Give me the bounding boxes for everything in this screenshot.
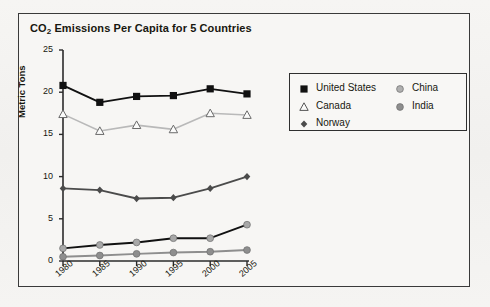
series-united-states <box>59 82 250 106</box>
legend-item-norway: Norway <box>316 117 350 128</box>
legend-marker-norway <box>301 120 308 127</box>
y-tick-label: 5 <box>31 213 53 223</box>
y-tick-label: 20 <box>31 86 53 96</box>
series-canada <box>59 109 251 134</box>
series-china <box>60 221 251 251</box>
chart-plot-area <box>0 0 490 307</box>
legend-item-united-states: United States <box>316 82 376 93</box>
legend-marker-united-states <box>300 85 307 92</box>
chart-legend: United StatesCanadaNorwayChinaIndia <box>289 73 467 131</box>
legend-marker-china <box>397 86 404 93</box>
y-tick-label: 15 <box>31 128 53 138</box>
axes <box>63 50 249 261</box>
legend-item-canada: Canada <box>316 100 351 111</box>
legend-item-india: India <box>412 100 434 111</box>
series-norway <box>60 173 251 202</box>
series-india <box>60 247 251 261</box>
y-tick-label: 0 <box>31 255 53 265</box>
y-tick-label: 10 <box>31 171 53 181</box>
legend-marker-india <box>397 104 404 111</box>
legend-item-china: China <box>412 82 438 93</box>
legend-marker-canada <box>300 103 308 111</box>
y-tick-label: 25 <box>31 44 53 54</box>
data-series-layer <box>59 82 251 260</box>
